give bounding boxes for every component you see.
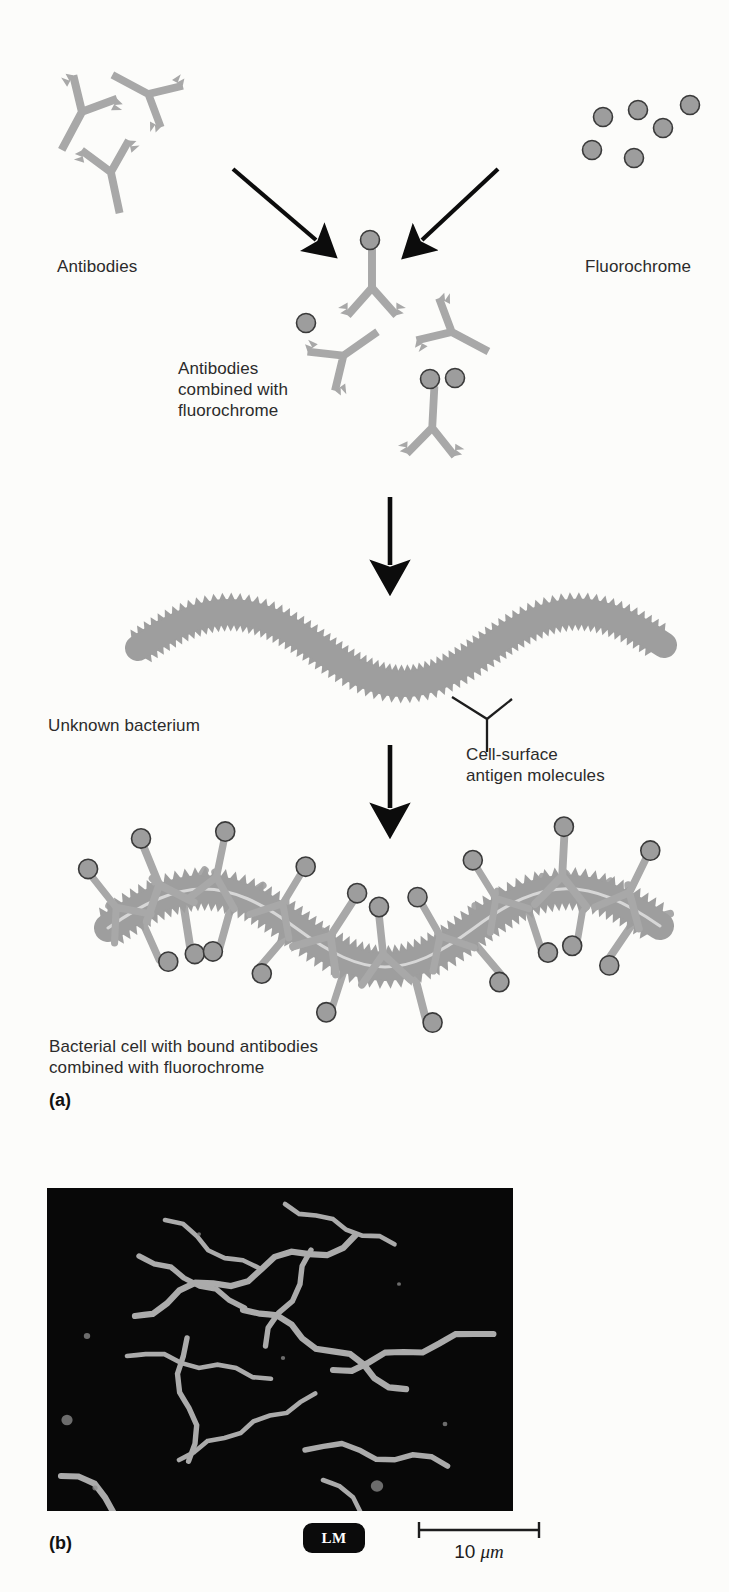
mixing-arrows [233, 169, 498, 240]
scale-value: 10 [454, 1541, 475, 1562]
bound-fluorochrome-dot [463, 850, 482, 869]
bound-fluorochrome-dot [252, 964, 271, 983]
micrograph-speck [84, 1333, 90, 1339]
scale-bar-label: 10 μm [415, 1541, 543, 1563]
bound-fluorochrome-dot [185, 944, 204, 963]
bound-fluorochrome-dot [370, 897, 389, 916]
immunofluorescence-figure: Antibodies Fluorochrome Antibodies combi… [0, 0, 729, 1592]
bound-fluorochrome-dot [216, 822, 235, 841]
bound-fluorochrome-dot [490, 972, 509, 991]
label-antibodies-combined-line1: Antibodies [178, 358, 258, 379]
bound-fluorochrome-dot [317, 1003, 336, 1022]
panel-b-letter: (b) [49, 1533, 72, 1554]
lm-badge-text: LM [321, 1530, 346, 1547]
micrograph-speck [397, 1282, 401, 1286]
fluorescence-micrograph [47, 1188, 513, 1511]
bound-antibody-complex [72, 817, 670, 1032]
light-microscopy-badge: LM [303, 1523, 365, 1553]
scale-unit: μm [481, 1541, 504, 1562]
micrograph-speck [443, 1422, 448, 1426]
label-bound-line1: Bacterial cell with bound antibodies [49, 1036, 318, 1057]
bound-fluorochrome-dot [408, 887, 427, 906]
micrograph-content [47, 1188, 513, 1511]
panel-a-schematic [0, 0, 729, 1130]
bound-fluorochrome-dot [641, 841, 660, 860]
panel-a-letter: (a) [49, 1090, 71, 1111]
bound-fluorochrome-dot [203, 942, 222, 961]
label-bound-line2: combined with fluorochrome [49, 1057, 264, 1078]
bound-fluorochrome-dot [600, 956, 619, 975]
bound-fluorochrome-dot [563, 936, 582, 955]
micrograph-speck [371, 1480, 383, 1491]
bound-fluorochrome-dot [132, 829, 151, 848]
bound-fluorochrome-dot [79, 859, 98, 878]
bound-fluorochrome-dot [348, 884, 367, 903]
free-antibody-group [31, 46, 187, 220]
bound-fluorochrome-dot [423, 1013, 442, 1032]
conjugated-antibody-group [297, 231, 505, 457]
label-antibodies: Antibodies [57, 256, 137, 277]
micrograph-speck [61, 1415, 72, 1425]
free-fluorochrome-group [583, 96, 700, 168]
label-antibodies-combined-line2: combined with [178, 379, 288, 400]
bound-fluorochrome-dot [538, 943, 557, 962]
micrograph-speck [281, 1356, 285, 1360]
micrograph-speck [92, 1486, 97, 1491]
bound-fluorochrome-dot [554, 817, 573, 836]
micrograph-speck [197, 1232, 201, 1236]
label-cell-surface-line2: antigen molecules [466, 765, 605, 786]
label-cell-surface-line1: Cell-surface [466, 744, 558, 765]
label-fluorochrome: Fluorochrome [585, 256, 691, 277]
label-antibodies-combined-line3: fluorochrome [178, 400, 278, 421]
label-unknown-bacterium: Unknown bacterium [48, 715, 200, 736]
bound-fluorochrome-dot [296, 857, 315, 876]
bound-fluorochrome-dot [159, 952, 178, 971]
unknown-bacterium [130, 592, 665, 703]
